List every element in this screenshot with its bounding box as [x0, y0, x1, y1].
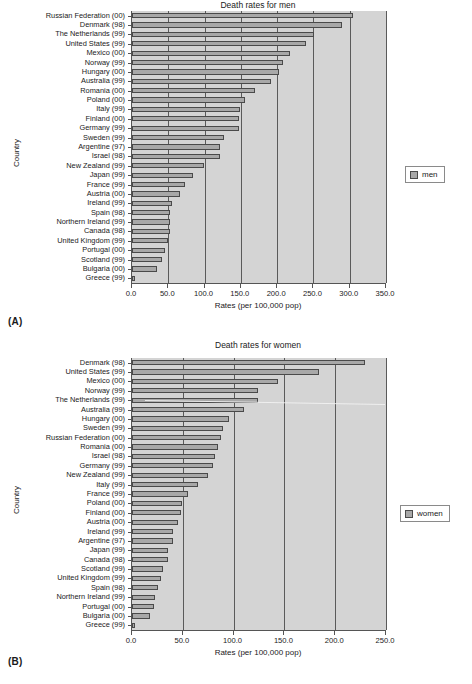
y-tick-label: Scotland (99): [81, 565, 125, 572]
bar: [132, 191, 180, 196]
bar: [132, 69, 279, 74]
y-axis-title-women: Country: [12, 486, 21, 514]
x-tick-label: 150.0: [230, 289, 249, 298]
y-tick-label: France (99): [87, 490, 125, 497]
y-tick-mark: [128, 34, 131, 35]
y-tick-label: United States (99): [65, 40, 125, 47]
y-tick-mark: [128, 494, 131, 495]
y-tick-mark: [128, 72, 131, 73]
bar: [132, 135, 224, 140]
y-tick-mark: [128, 81, 131, 82]
bar: [132, 444, 218, 449]
y-tick-mark: [128, 128, 131, 129]
bar: [132, 173, 193, 178]
y-tick-mark: [128, 485, 131, 486]
x-tick-label: 250.0: [375, 636, 394, 645]
y-tick-label: Norway (99): [85, 387, 125, 394]
gridline: [386, 11, 387, 283]
bar: [132, 407, 244, 412]
y-tick-label: Romania (00): [80, 443, 125, 450]
bar: [132, 257, 162, 262]
y-tick-mark: [128, 138, 131, 139]
y-tick-label: Denmark (98): [80, 21, 125, 28]
plot-area-women: [131, 358, 386, 631]
y-tick-label: Northern Ireland (99): [56, 593, 125, 600]
y-tick-mark: [128, 222, 131, 223]
bar: [132, 426, 223, 431]
x-tick-label: 250.0: [303, 289, 322, 298]
x-tick-mark: [283, 631, 284, 635]
legend-label: men: [422, 170, 438, 179]
legend-swatch-icon: [410, 171, 418, 179]
bar: [132, 548, 168, 553]
legend-women[interactable]: women: [400, 505, 450, 522]
legend-label: women: [417, 509, 443, 518]
y-tick-label: Poland (00): [87, 96, 125, 103]
x-tick-mark: [334, 631, 335, 635]
bar: [132, 454, 215, 459]
y-tick-label: Norway (99): [85, 59, 125, 66]
y-tick-label: Russian Federation (00): [46, 12, 125, 19]
y-tick-label: Northern Ireland (99): [56, 218, 125, 225]
y-tick-mark: [128, 381, 131, 382]
x-tick-mark: [131, 284, 132, 288]
bar: [132, 435, 221, 440]
bar: [132, 491, 188, 496]
y-tick-mark: [128, 391, 131, 392]
legend-men[interactable]: men: [405, 166, 445, 183]
y-tick-label: Canada (98): [84, 556, 125, 563]
y-tick-label: Australia (99): [81, 77, 125, 84]
y-tick-label: Italy (99): [96, 105, 125, 112]
y-tick-mark: [128, 372, 131, 373]
x-tick-mark: [385, 284, 386, 288]
y-tick-label: Denmark (98): [80, 359, 125, 366]
y-tick-label: Bulgaria (00): [83, 265, 125, 272]
bar: [132, 566, 163, 571]
bar: [132, 32, 314, 37]
bar: [132, 154, 220, 159]
y-tick-label: The Netherlands (99): [55, 396, 125, 403]
y-tick-mark: [128, 269, 131, 270]
bar-series-women: [132, 358, 386, 630]
y-tick-label: Finland (00): [86, 509, 125, 516]
bar: [132, 576, 161, 581]
x-tick-label: 0.0: [126, 289, 137, 298]
bar: [132, 51, 290, 56]
bar: [132, 501, 182, 506]
bar: [132, 276, 135, 281]
y-tick-mark: [128, 466, 131, 467]
x-tick-label: 100.0: [223, 636, 242, 645]
x-tick-mark: [204, 284, 205, 288]
y-tick-mark: [128, 109, 131, 110]
x-axis-title-women: Rates (per 100,000 pop): [131, 648, 385, 657]
y-tick-label: Portugal (00): [82, 603, 125, 610]
y-tick-label: Italy (99): [96, 481, 125, 488]
x-tick-label: 300.0: [339, 289, 358, 298]
y-tick-mark: [128, 203, 131, 204]
y-tick-mark: [128, 250, 131, 251]
bar: [132, 266, 157, 271]
y-tick-label: Hungary (00): [82, 415, 125, 422]
bar: [132, 88, 255, 93]
y-tick-mark: [128, 44, 131, 45]
y-tick-label: Finland (00): [86, 115, 125, 122]
y-tick-label: Japan (99): [90, 171, 125, 178]
x-tick-label: 200.0: [267, 289, 286, 298]
x-tick-mark: [233, 631, 234, 635]
y-tick-mark: [128, 569, 131, 570]
y-tick-mark: [128, 503, 131, 504]
y-tick-label: Israel (98): [92, 452, 125, 459]
y-tick-label: Ireland (99): [87, 199, 125, 206]
y-tick-mark: [128, 91, 131, 92]
bar: [132, 60, 283, 65]
x-tick-label: 50.0: [174, 636, 189, 645]
y-tick-label: Spain (98): [91, 584, 125, 591]
bar: [132, 126, 239, 131]
y-tick-label: Spain (98): [91, 209, 125, 216]
chart-panel-women: Death rates for women Denmark (98)United…: [0, 340, 472, 684]
chart-title-men: Death rates for men: [131, 0, 385, 10]
y-tick-mark: [128, 532, 131, 533]
plot-area-men: [131, 11, 386, 284]
y-tick-mark: [128, 185, 131, 186]
y-tick-label: Hungary (00): [82, 68, 125, 75]
